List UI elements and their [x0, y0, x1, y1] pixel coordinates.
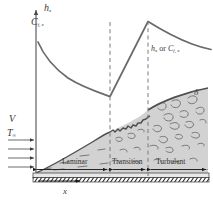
- y-axis-label-cf: Cf, x: [31, 16, 44, 27]
- region-label-laminar: Laminar: [62, 157, 87, 166]
- figure-container: hx Cf, x hx or Cf, x V T∞ δ x Laminar Tr…: [0, 0, 213, 204]
- x-axis-label: x: [63, 186, 67, 196]
- freestream-arrows: [8, 140, 34, 167]
- h-and-cf-curve: [38, 22, 211, 97]
- delta-thickness-label: δ: [194, 87, 198, 97]
- region-label-transition: Transition: [112, 157, 143, 166]
- region-label-turbulent: Turbulent: [156, 157, 185, 166]
- y-axis-label-h: hx: [44, 2, 51, 13]
- freestream-temperature-label: T∞: [7, 127, 16, 138]
- diagram-canvas: [0, 0, 213, 204]
- curve-annotation-label: hx or Cf, x: [151, 44, 179, 53]
- freestream-velocity-label: V: [9, 113, 15, 124]
